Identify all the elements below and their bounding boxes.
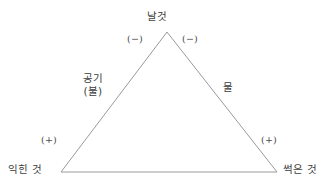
vertex-label-apex: 날것 bbox=[147, 10, 167, 22]
sign-marker-apex-right: (−) bbox=[182, 34, 198, 45]
sign-marker-apex-left: (−) bbox=[127, 34, 143, 45]
triangle-outline-graphic bbox=[0, 0, 334, 189]
edge-label-left-primary: 공기 bbox=[83, 72, 103, 84]
sign-marker-base-right: (+) bbox=[261, 135, 277, 146]
edge-label-left: 공기 (불) bbox=[73, 72, 113, 97]
triangle-shape bbox=[61, 32, 277, 172]
vertex-label-bottom-right: 썩은 것 bbox=[283, 163, 317, 175]
culinary-triangle-diagram: 날것 익힌 것 썩은 것 공기 (불) 물 (−) (−) (+) (+) bbox=[0, 0, 334, 189]
edge-label-right-primary: 물 bbox=[223, 81, 233, 93]
vertex-label-bottom-left: 익힌 것 bbox=[8, 163, 42, 175]
edge-label-right: 물 bbox=[215, 81, 241, 93]
sign-marker-base-left: (+) bbox=[41, 135, 57, 146]
edge-label-left-secondary: (불) bbox=[73, 85, 113, 97]
